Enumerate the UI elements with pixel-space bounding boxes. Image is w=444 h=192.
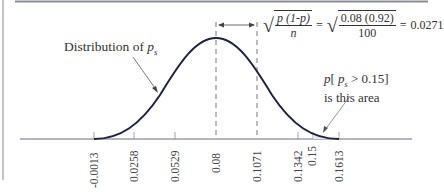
tick-label: 0.08 — [210, 153, 222, 173]
formula-numerator: p (1-p) — [275, 11, 312, 26]
tick-label: 0.0258 — [128, 150, 140, 182]
sqrt-expression-2: √0.08 (0.92)100 — [327, 10, 396, 40]
sqrt-icon: √ — [263, 14, 274, 36]
area-label-line1: p[ ps > 0.15] — [324, 72, 389, 91]
sqrt-expression-1: √p (1-p)n — [263, 10, 312, 40]
std-error-result: 0.0271 — [411, 18, 444, 32]
std-error-formula: √p (1-p)n = √0.08 (0.92)100 = 0.0271 — [263, 10, 444, 40]
tick-label: 0.1342 — [292, 150, 304, 182]
tick-label: 0.15 — [306, 146, 318, 166]
tick-label: 0.0529 — [169, 150, 181, 182]
tick-label: 0.1613 — [333, 150, 345, 182]
distribution-pointer-head-icon — [152, 86, 158, 93]
formula-denominator: n — [275, 26, 312, 40]
distribution-pointer — [133, 57, 157, 91]
axis-ticks — [94, 132, 339, 139]
distribution-label-var: p — [147, 39, 154, 54]
formula-numerator-values: 0.08 (0.92) — [339, 11, 396, 26]
formula-denominator-values: 100 — [339, 26, 396, 40]
arrow-head-left-icon — [218, 23, 224, 28]
arrow-head-right-icon — [249, 23, 255, 28]
area-label-condition: > 0.15] — [348, 71, 389, 86]
equals-sign-2: = — [400, 18, 407, 32]
area-label-bracket: [ — [331, 71, 339, 86]
area-label: p[ ps > 0.15] is this area — [324, 72, 389, 104]
area-label-line2: is this area — [324, 91, 389, 104]
distribution-label-text: Distribution of — [64, 39, 147, 54]
tick-label: -0.0013 — [88, 153, 100, 188]
distribution-label-sub: s — [154, 47, 158, 57]
equals-sign-1: = — [316, 18, 323, 32]
tick-label: 0.1071 — [251, 150, 263, 182]
sqrt-icon: √ — [327, 14, 338, 36]
distribution-label: Distribution of ps — [64, 40, 158, 59]
